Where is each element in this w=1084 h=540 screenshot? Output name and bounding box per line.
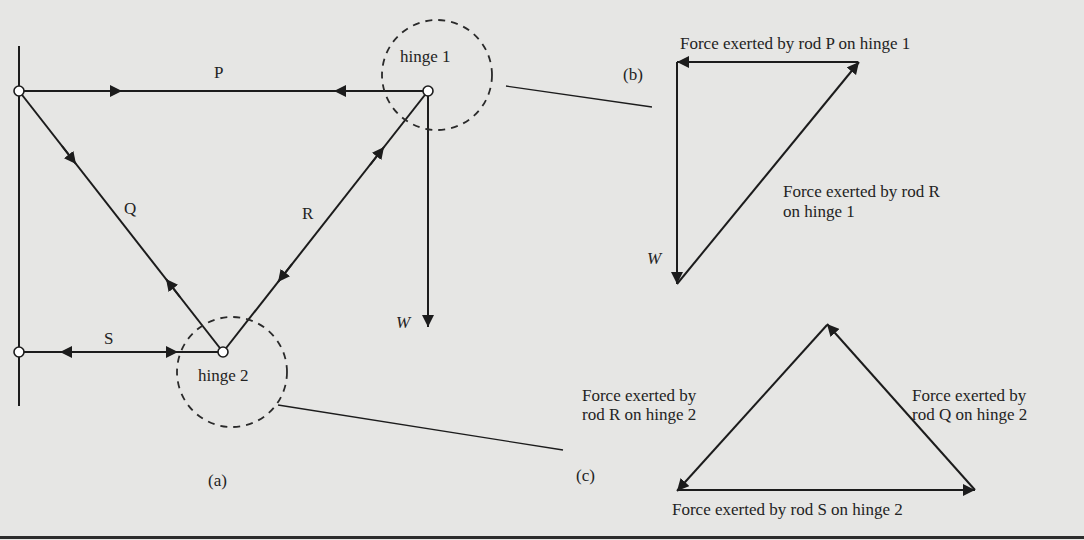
- rod-r-label: R: [302, 205, 313, 222]
- weight-label-b: W: [647, 250, 661, 267]
- rod-q-arrow-up-icon: [166, 279, 180, 297]
- rod-q-label: Q: [124, 200, 136, 217]
- force-s-hinge2-label: Force exerted by rod S on hinge 2: [672, 501, 903, 518]
- force-diagram-canvas: [0, 0, 1084, 540]
- rod-s-label: S: [104, 330, 113, 347]
- force-r-vector: [677, 62, 859, 284]
- force-r-hinge2-label-line2: rod R on hinge 2: [582, 406, 696, 423]
- weight-label-a: W: [396, 314, 410, 331]
- rod-q: [19, 91, 223, 352]
- panel-b-label: (b): [623, 66, 643, 83]
- bottom-rule: [0, 536, 1084, 539]
- force-r-hinge2-label-line1: Force exerted by: [582, 387, 696, 404]
- leader-line-hinge-1: [506, 86, 652, 107]
- force-q-hinge2-label-line2: rod Q on hinge 2: [912, 406, 1027, 423]
- rod-q-arrow-down-icon: [62, 146, 76, 164]
- hinge-2-label: hinge 2: [198, 367, 249, 384]
- force-q-hinge2-label-line1: Force exerted by: [912, 387, 1026, 404]
- rod-p-label: P: [214, 64, 223, 81]
- panel-a-label: (a): [208, 472, 227, 489]
- rod-r-arrow-down-icon: [278, 264, 292, 282]
- panel-b-force-triangle: [677, 62, 859, 284]
- hinge-1-highlight-circle: [382, 20, 492, 130]
- panel-c-label: (c): [576, 467, 595, 484]
- force-r-hinge2-vector: [677, 325, 827, 491]
- node-bottom-left: [14, 347, 24, 357]
- force-r-label-line2: on hinge 1: [783, 203, 855, 220]
- hinge-1-label: hinge 1: [400, 48, 451, 65]
- leader-line-hinge-2: [278, 405, 563, 450]
- rod-r-arrow-up-icon: [370, 147, 384, 165]
- node-top-left: [14, 86, 24, 96]
- panel-a-structure: [14, 20, 652, 450]
- node-hinge-1: [423, 86, 433, 96]
- force-r-label-line1: Force exerted by rod R: [783, 183, 940, 200]
- node-hinge-2: [218, 347, 228, 357]
- force-p-label: Force exerted by rod P on hinge 1: [680, 35, 910, 52]
